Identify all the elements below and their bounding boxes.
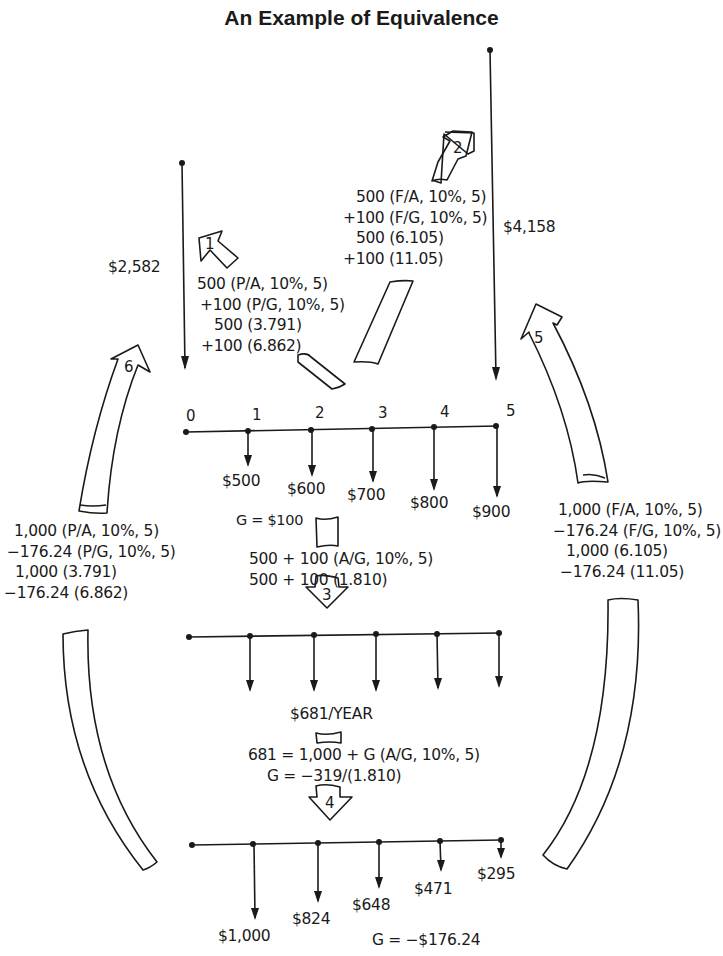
annuity-connector [316, 732, 341, 743]
step4-line: G = −319/(1.810) [267, 766, 480, 787]
step2-line: 500 (F/A, 10%, 5) [356, 187, 487, 208]
bottom-amount-2: $824 [292, 909, 330, 929]
step4-number: 4 [325, 794, 335, 812]
bottom-gradient-label: G = −$176.24 [372, 930, 480, 950]
bottom-amount-4: $471 [414, 879, 452, 899]
step5-number: 5 [534, 329, 544, 347]
bottom-amount-1: $1,000 [218, 926, 270, 946]
top-gradient-label: G = $100 [236, 510, 303, 530]
step2-equations: 500 (F/A, 10%, 5) +100 (F/G, 10%, 5) 500… [343, 187, 487, 269]
step1-line: +100 (6.862) [201, 336, 345, 357]
step6-line: 1,000 (P/A, 10%, 5) [14, 521, 176, 542]
step2-number: 2 [453, 139, 463, 157]
top-amount-5: $900 [472, 502, 510, 522]
step6-curved-arrow [79, 345, 150, 513]
step5-line: −176.24 (F/G, 10%, 5) [553, 521, 721, 542]
step6-line: 1,000 (3.791) [15, 562, 176, 583]
diagram-graphics: 1 2 3 4 5 6 [0, 0, 723, 956]
equivalence-diagram: An Example of Equivalence [0, 0, 723, 956]
step5-line: 1,000 (F/A, 10%, 5) [558, 500, 721, 521]
step6-line: −176.24 (6.862) [4, 583, 176, 604]
step2-arrow-shape [432, 131, 472, 181]
step2-line: +100 (11.05) [343, 249, 487, 270]
step5-line: −176.24 (11.05) [560, 562, 721, 583]
step4-equations: 681 = 1,000 + G (A/G, 10%, 5) G = −319/(… [248, 745, 480, 786]
gradient-connector [316, 517, 338, 547]
step1-line: 500 (P/A, 10%, 5) [197, 274, 345, 295]
top-amount-4: $800 [410, 493, 448, 513]
step3-line: 500 + 100 (1.810) [249, 570, 433, 591]
future-worth-arrow [487, 47, 500, 381]
step3-equations: 500 + 100 (A/G, 10%, 5) 500 + 100 (1.810… [249, 549, 433, 590]
step6-number: 6 [124, 358, 134, 376]
step2-line: +100 (F/G, 10%, 5) [343, 208, 487, 229]
cashflow-bottom-timeline [189, 837, 505, 920]
period-label-0: 0 [186, 407, 196, 425]
step3-line: 500 + 100 (A/G, 10%, 5) [249, 549, 433, 570]
step1-line: +100 (P/G, 10%, 5) [200, 295, 345, 316]
step6-connector [80, 505, 106, 506]
bottom-amount-5: $295 [477, 864, 515, 884]
top-amount-2: $600 [287, 479, 325, 499]
cashflow-middle-timeline [186, 630, 503, 692]
step5-connector [583, 474, 605, 478]
step2-connector [354, 281, 413, 364]
bottom-amount-3: $648 [352, 895, 390, 915]
future-worth-label: $4,158 [503, 217, 555, 237]
step5-equations: 1,000 (F/A, 10%, 5) −176.24 (F/G, 10%, 5… [553, 500, 721, 582]
step2-line: 500 (6.105) [356, 228, 487, 249]
period-label-1: 1 [252, 406, 262, 424]
step1-equations: 500 (P/A, 10%, 5) +100 (P/G, 10%, 5) 500… [197, 274, 345, 356]
period-label-2: 2 [315, 404, 325, 422]
step1-connector [298, 354, 345, 389]
period-label-4: 4 [440, 403, 450, 421]
present-worth-label: $2,582 [108, 257, 160, 277]
present-worth-arrow [179, 160, 189, 370]
step6-line: −176.24 (P/G, 10%, 5) [7, 542, 176, 563]
step6-equations: 1,000 (P/A, 10%, 5) −176.24 (P/G, 10%, 5… [2, 521, 176, 603]
period-label-3: 3 [378, 404, 388, 422]
left-lower-band [63, 630, 157, 870]
annuity-label: $681/YEAR [290, 704, 373, 724]
top-amount-1: $500 [222, 471, 260, 491]
right-lower-band [543, 599, 639, 870]
step1-number: 1 [205, 235, 215, 253]
step5-line: 1,000 (6.105) [566, 541, 721, 562]
step4-line: 681 = 1,000 + G (A/G, 10%, 5) [248, 745, 480, 766]
step1-line: 500 (3.791) [214, 315, 345, 336]
top-amount-3: $700 [347, 485, 385, 505]
period-label-5: 5 [506, 402, 516, 420]
